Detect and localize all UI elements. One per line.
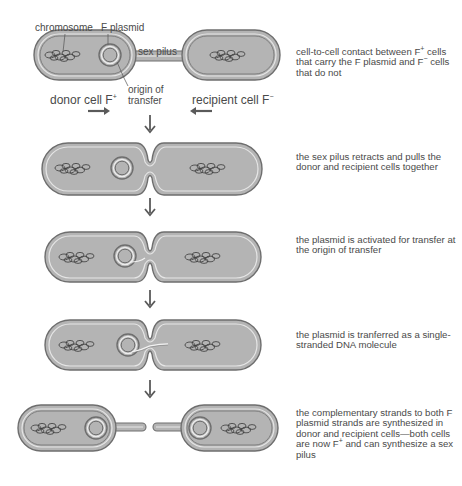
recipient-cell-label: recipient cell F− — [192, 94, 273, 107]
step-4-description: the plasmid is tranferred as a single-st… — [296, 330, 462, 351]
origin-of-transfer-label: origin of transfer — [128, 84, 164, 106]
arrow-left-icon — [190, 107, 212, 115]
donor-cell-label: donor cell F+ — [50, 94, 117, 107]
step-5-description: the complementary strands to both F plas… — [296, 408, 462, 460]
sex-pilus-label: sex pilus — [138, 46, 177, 57]
origin-label-line2: transfer — [128, 95, 164, 106]
arrow-down-icon — [145, 198, 155, 215]
stage-4-cells — [45, 320, 261, 370]
arrow-right-icon — [88, 107, 110, 115]
step-1-description: cell-to-cell contact between F+ cells th… — [296, 47, 462, 78]
stage-2-cells — [42, 143, 262, 195]
step-3-description: the plasmid is activated for transfer at… — [296, 235, 462, 256]
step-2-description: the sex pilus retracts and pulls the don… — [296, 152, 462, 173]
donor-cell-text: donor cell F — [50, 93, 113, 107]
stage-5-cells — [18, 405, 278, 451]
recipient-sup: − — [269, 93, 273, 100]
recipient-cell-text: recipient cell F — [192, 93, 269, 107]
chromosome-label: chromosome — [35, 22, 93, 33]
origin-label-line1: origin of — [128, 84, 164, 95]
donor-sup: + — [113, 93, 117, 100]
stage-3-cells — [45, 232, 261, 282]
arrow-down-icon — [145, 115, 155, 132]
f-plasmid-label: F plasmid — [101, 22, 144, 33]
arrow-down-icon — [145, 290, 155, 307]
arrow-down-icon — [145, 380, 155, 397]
